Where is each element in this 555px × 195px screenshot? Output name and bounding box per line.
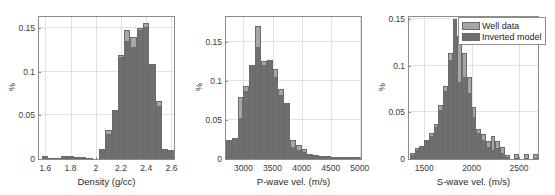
- histogram-bar: [524, 158, 529, 159]
- legend-color-swatch: [462, 33, 480, 41]
- histogram-bar: [533, 158, 538, 159]
- ytick-label: 0.15: [388, 14, 405, 24]
- figure-histogram-comparison: 00.050.10.151.61.822.22.42.6Density (g/c…: [0, 0, 555, 195]
- xtick-label: 2000: [462, 163, 481, 173]
- legend-item[interactable]: Inverted model: [462, 31, 542, 42]
- xtick-mark: [519, 157, 520, 160]
- legend: Well dataInverted model: [458, 17, 546, 45]
- legend-label: Well data: [482, 21, 519, 31]
- legend-label: Inverted model: [482, 32, 542, 42]
- histogram-bar: [505, 157, 510, 159]
- yaxis-title: %: [377, 80, 387, 94]
- xtick-label: 2500: [510, 163, 529, 173]
- xtick-label: 1500: [415, 163, 434, 173]
- histogram-bar: [354, 157, 360, 159]
- legend-color-swatch: [462, 22, 480, 30]
- legend-item[interactable]: Well data: [462, 20, 542, 31]
- ytick-label: 0.05: [388, 107, 405, 117]
- histogram-bar: [168, 150, 174, 159]
- histogram-bar: [514, 158, 519, 159]
- ytick-mark: [408, 159, 411, 160]
- ytick-label: 0.1: [393, 61, 405, 71]
- ytick-mark: [408, 112, 411, 113]
- ytick-mark: [408, 19, 411, 20]
- ytick-mark: [408, 66, 411, 67]
- ytick-label: 0: [400, 154, 405, 164]
- histogram-bar: [86, 158, 92, 159]
- xaxis-title: S-wave vel. (m/s): [437, 176, 510, 187]
